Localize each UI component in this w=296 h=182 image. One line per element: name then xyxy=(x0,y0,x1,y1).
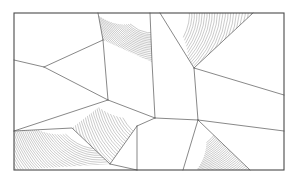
polygon-faces-layer xyxy=(14,13,284,170)
polygon-upper-left xyxy=(14,13,103,67)
hatch-stroke xyxy=(116,171,295,182)
hatch-stroke xyxy=(0,1,14,182)
polygon-partition-canvas xyxy=(0,0,296,182)
hatch-stroke xyxy=(0,0,10,182)
hatch-stroke xyxy=(113,175,296,182)
hatch-stroke xyxy=(109,179,296,182)
figure-root xyxy=(0,0,296,182)
